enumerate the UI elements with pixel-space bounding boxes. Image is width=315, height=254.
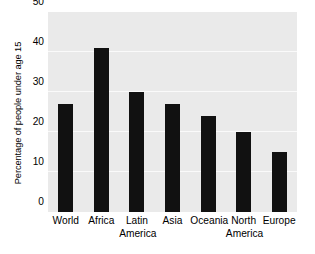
x-tick-label: World [48, 215, 84, 228]
y-tick-label: 50 [2, 0, 44, 7]
bar [94, 48, 109, 212]
bar-chart: Percentage of people under age 15 010203… [0, 0, 315, 254]
x-tick-label: Africa [84, 215, 120, 228]
x-axis-tick-labels: WorldAfricaLatin AmericaAsiaOceaniaNorth… [48, 215, 297, 254]
x-tick-label: Oceania [190, 215, 226, 228]
bar [236, 132, 251, 212]
y-tick-label: 40 [2, 37, 44, 47]
bar [165, 104, 180, 212]
bar [58, 104, 73, 212]
gridline [48, 51, 297, 52]
x-tick-label: Asia [155, 215, 191, 228]
y-tick-label: 10 [2, 157, 44, 167]
x-tick-label: Europe [261, 215, 297, 228]
y-tick-label: 0 [2, 197, 44, 207]
gridline [48, 91, 297, 92]
x-tick-label: Latin America [119, 215, 155, 240]
y-tick-label: 30 [2, 77, 44, 87]
plot-area [48, 12, 297, 212]
bar [272, 152, 287, 212]
bar [201, 116, 216, 212]
y-tick-label: 20 [2, 117, 44, 127]
bar [129, 92, 144, 212]
x-tick-label: North America [226, 215, 262, 240]
y-axis-tick-labels: 01020304050 [0, 12, 44, 212]
